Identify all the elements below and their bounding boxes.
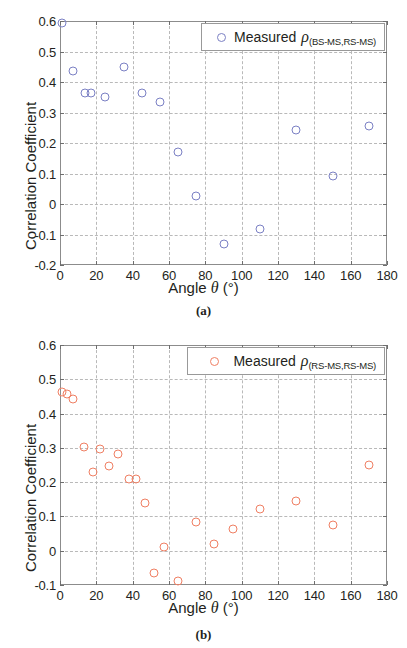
legend-subscript-b: (RS-MS,RS-MS)	[308, 360, 376, 371]
x-axis-tick	[169, 261, 170, 265]
data-point	[192, 191, 201, 200]
y-axis-tick	[383, 52, 387, 53]
y-axis-tick	[383, 143, 387, 144]
y-axis-tick	[383, 516, 387, 517]
y-axis-tick	[383, 113, 387, 114]
x-axis-tick	[133, 261, 134, 265]
data-point	[328, 171, 337, 180]
legend-prefix-b: Measured	[233, 353, 295, 369]
data-point	[255, 504, 264, 513]
data-point	[328, 520, 337, 529]
data-point	[364, 122, 373, 131]
data-point	[132, 475, 141, 484]
x-axis-tick	[133, 581, 134, 585]
data-point	[292, 497, 301, 506]
x-axis-title-a: Angle θ (°)	[0, 279, 407, 297]
y-axis-tick	[60, 143, 64, 144]
open-circle-icon	[210, 357, 219, 366]
x-axis-tick	[242, 261, 243, 265]
y-axis-tick	[383, 585, 387, 586]
data-point	[364, 460, 373, 469]
y-axis-tick-label: 0.4	[14, 75, 56, 90]
y-axis-tick	[60, 82, 64, 83]
y-axis-tick-label: 0.5	[14, 44, 56, 59]
y-axis-tick	[383, 204, 387, 205]
y-axis-tick-label: 0.6	[14, 338, 56, 353]
x-axis-tick	[96, 345, 97, 349]
data-point	[174, 577, 183, 586]
y-axis-tick	[383, 265, 387, 266]
x-axis-tick	[387, 581, 388, 585]
y-axis-tick	[60, 235, 64, 236]
data-point	[141, 499, 150, 508]
data-point	[79, 442, 88, 451]
y-axis-tick	[383, 21, 387, 22]
x-axis-tick	[278, 581, 279, 585]
data-point	[210, 540, 219, 549]
data-point	[119, 63, 128, 72]
legend-prefix-a: Measured	[234, 29, 296, 45]
data-point	[68, 67, 77, 76]
x-axis-tick	[314, 261, 315, 265]
rho-symbol-b: ρ	[301, 352, 309, 370]
data-point	[114, 450, 123, 459]
y-axis-tick	[383, 551, 387, 552]
x-axis-unit-b: (°)	[219, 599, 239, 616]
data-point	[155, 97, 164, 106]
x-axis-tick	[387, 345, 388, 349]
x-axis-tick	[133, 345, 134, 349]
x-axis-tick	[278, 261, 279, 265]
x-axis-tick	[96, 581, 97, 585]
data-point	[101, 93, 110, 102]
x-axis-tick	[169, 581, 170, 585]
y-axis-tick	[60, 482, 64, 483]
y-axis-tick	[383, 482, 387, 483]
legend-marker-slot-a	[210, 33, 234, 42]
x-axis-tick	[205, 261, 206, 265]
chart-panel-a: 020406080100120140160180-0.2-0.100.10.20…	[0, 0, 407, 324]
x-axis-tick	[351, 581, 352, 585]
chart-panel-b: 020406080100120140160180-0.100.10.20.30.…	[0, 324, 407, 648]
panel-label-a: (a)	[0, 303, 407, 319]
y-axis-tick	[60, 551, 64, 552]
data-point	[95, 444, 104, 453]
y-axis-tick	[60, 516, 64, 517]
x-axis-tick	[169, 21, 170, 25]
y-axis-tick-label: 0.6	[14, 14, 56, 29]
data-point	[88, 467, 97, 476]
data-point	[219, 239, 228, 248]
legend-label-a: Measured ρ (BS-MS,RS-MS)	[234, 28, 376, 46]
legend-label-b: Measured ρ (RS-MS,RS-MS)	[233, 352, 376, 370]
y-axis-tick	[383, 379, 387, 380]
x-axis-tick	[351, 261, 352, 265]
x-axis-tick	[242, 581, 243, 585]
data-point	[150, 568, 159, 577]
y-axis-tick	[60, 52, 64, 53]
y-axis-title-b: Correlation Coefficient	[22, 424, 39, 572]
y-axis-tick	[60, 379, 64, 380]
x-axis-unit-a: (°)	[219, 279, 239, 296]
x-axis-tick	[96, 21, 97, 25]
data-point	[86, 88, 95, 97]
open-circle-icon	[217, 33, 226, 42]
legend-a[interactable]: Measured ρ (BS-MS,RS-MS)	[201, 23, 385, 51]
y-axis-title-a: Correlation Coefficient	[22, 102, 39, 250]
data-point	[292, 125, 301, 134]
data-point	[105, 461, 114, 470]
y-axis-tick	[60, 414, 64, 415]
y-axis-tick	[60, 448, 64, 449]
y-axis-tick	[60, 174, 64, 175]
y-axis-tick	[60, 585, 64, 586]
data-point	[174, 147, 183, 156]
rho-symbol-a: ρ	[301, 28, 309, 46]
x-axis-tick	[169, 345, 170, 349]
x-axis-tick	[133, 21, 134, 25]
y-axis-tick	[383, 82, 387, 83]
data-point	[228, 525, 237, 534]
x-axis-tick	[387, 261, 388, 265]
y-axis-tick	[60, 204, 64, 205]
legend-b[interactable]: Measured ρ (RS-MS,RS-MS)	[187, 347, 385, 375]
data-point	[192, 518, 201, 527]
legend-subscript-a: (BS-MS,RS-MS)	[309, 36, 376, 47]
data-point	[68, 395, 77, 404]
